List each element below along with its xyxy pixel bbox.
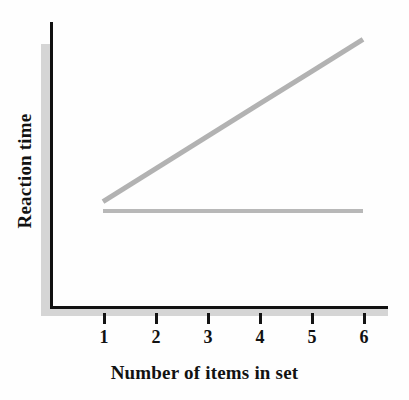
x-tick-label: 3 xyxy=(193,327,223,348)
x-tick-label: 4 xyxy=(245,327,275,348)
x-axis-line xyxy=(50,306,388,309)
y-axis-line xyxy=(50,22,53,309)
chart-figure: Reaction time 1 2 3 4 5 6 Number of item… xyxy=(0,0,409,400)
x-tick-mark xyxy=(103,313,106,324)
x-tick-mark xyxy=(207,313,210,324)
x-tick-mark xyxy=(259,313,262,324)
x-axis-title: Number of items in set xyxy=(0,362,409,384)
x-tick-label: 2 xyxy=(141,327,171,348)
series-increasing-line xyxy=(103,39,363,201)
x-tick-label: 6 xyxy=(349,327,379,348)
x-tick-mark xyxy=(311,313,314,324)
x-tick-mark xyxy=(363,313,366,324)
x-tick-mark xyxy=(155,313,158,324)
x-tick-label: 1 xyxy=(89,327,119,348)
x-tick-label: 5 xyxy=(297,327,327,348)
y-axis-title: Reaction time xyxy=(14,71,36,271)
